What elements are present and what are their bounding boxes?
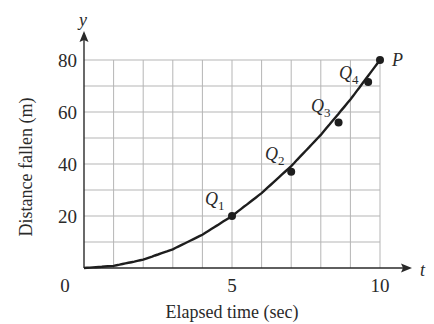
x-axis-title: Elapsed time (sec) [166,302,299,323]
chart-canvas: y t 0 5 10 20 40 60 80 Elapsed time (sec… [0,0,434,324]
x-tick-0: 0 [60,275,70,296]
x-axis-variable: t [420,260,426,280]
y-tick-20: 20 [58,206,77,227]
y-tick-80: 80 [58,50,77,71]
point-marker-p [376,56,384,64]
x-tick-10: 10 [371,275,390,296]
y-axis-title: Distance fallen (m) [16,98,37,237]
grid-lines [84,60,380,268]
point-label-q4: Q4 [339,63,359,87]
y-axis-variable: y [77,10,87,30]
point-label-p: P [391,50,403,70]
point-label-q1: Q1 [205,189,225,213]
point-marker-q1 [228,212,236,220]
point-marker-q2 [287,168,295,176]
point-marker-q4 [364,78,372,86]
y-tick-40: 40 [58,154,77,175]
x-tick-5: 5 [227,275,237,296]
y-tick-60: 60 [58,102,77,123]
axes [80,31,413,273]
point-marker-q3 [335,118,343,126]
